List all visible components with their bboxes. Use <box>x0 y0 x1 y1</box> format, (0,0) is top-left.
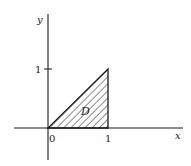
y-tick-label: 1 <box>35 64 41 75</box>
x-tick-label: 1 <box>105 133 111 144</box>
x-axis-label: x <box>175 130 181 141</box>
region-label: D <box>80 105 90 118</box>
y-axis-label: y <box>36 14 43 25</box>
region-diagram: y x 1 0 1 D <box>0 0 191 166</box>
region-d <box>48 69 108 128</box>
origin-label: 0 <box>49 133 55 144</box>
